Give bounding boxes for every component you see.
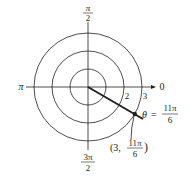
radius-label-3: 3 [143,91,148,101]
coord-prefix: (3, [110,142,121,154]
label-top-den: 2 [86,13,91,23]
coord-den: 6 [133,149,138,159]
label-bottom-den: 2 [86,163,91,173]
polar-diagram: π 2 π 0 3π 2 2 3 θ = 11π 6 (3, 11π 6 ) [0,0,190,177]
label-bottom-num: 3π [83,152,93,162]
coord-num: 11π [128,138,142,148]
label-left: π [18,81,24,92]
radius-label-2: 2 [125,91,130,101]
coord-suffix: ) [144,140,148,154]
theta-symbol: θ [142,109,147,120]
arrow-right-icon [151,85,156,89]
label-top-num: π [86,3,91,13]
point-marker [133,112,137,116]
theta-num: 11π [163,103,177,113]
equals-sign: = [151,109,157,120]
label-right: 0 [160,81,165,92]
theta-den: 6 [168,115,173,125]
